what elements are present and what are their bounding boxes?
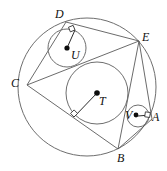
vertex-label-C: C [11,77,19,89]
center-label-T: T [99,95,106,107]
center-dot-U [64,45,69,50]
right-angle-mark-U [68,25,75,32]
chord-CE [27,41,139,85]
vertex-label-A: A [152,111,159,123]
center-label-U: U [71,49,80,61]
geometry-figure: D E C A B U T V [0,0,167,171]
center-dot-V [134,113,139,118]
vertex-label-D: D [55,8,64,20]
geometry-canvas [0,0,167,171]
right-angle-mark-V [145,112,151,118]
radius-segment-U [67,30,75,48]
vertex-label-E: E [142,31,149,43]
center-label-V: V [125,109,132,121]
vertex-label-B: B [117,152,124,164]
outer-circle [18,18,156,156]
